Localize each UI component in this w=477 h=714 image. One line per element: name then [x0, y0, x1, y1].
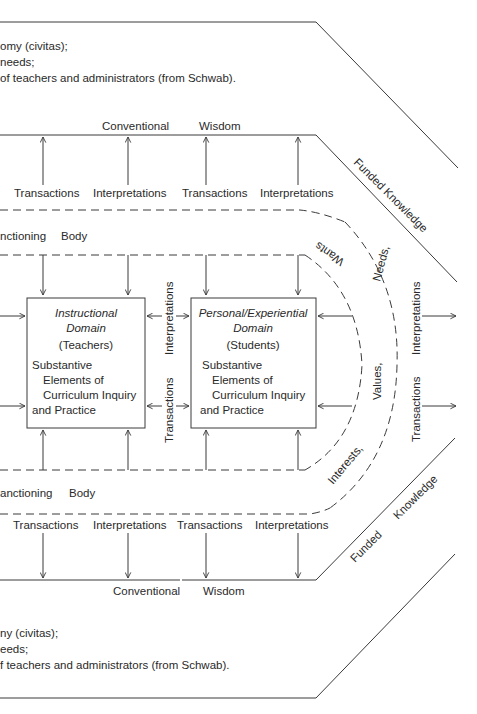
- instructional-body-3: Curriculum Inquiry: [43, 389, 137, 401]
- personal-body-4: and Practice: [200, 404, 264, 416]
- right-interpretations-label: Interpretations: [410, 281, 422, 355]
- top-conventional-label: Conventional: [102, 120, 169, 132]
- instructional-title-2: Domain: [66, 322, 106, 334]
- instructional-body-1: Substantive: [32, 359, 92, 371]
- top-body-word: Body: [61, 230, 87, 242]
- bottom-note-1: ny (civitas);: [0, 627, 58, 639]
- bottom-conventional-wisdom-line-2: [182, 438, 455, 580]
- top-note-1: omy (civitas);: [0, 40, 68, 52]
- arc-label-needs: Needs,: [370, 244, 391, 282]
- bottom-label-interpretations-2: Interpretations: [255, 519, 329, 531]
- instructional-body-2: Elements of: [43, 374, 105, 386]
- top-label-interpretations-1: Interpretations: [93, 187, 167, 199]
- top-sanctioning-dash-outer: [0, 210, 345, 222]
- bottom-funded-label: Funded: [348, 528, 384, 564]
- top-funded-knowledge-label: Funded Knowledge: [352, 156, 431, 235]
- between-transactions-label: Transactions: [163, 377, 175, 443]
- arc-label-interests: Interests,: [325, 442, 365, 486]
- bottom-note-2: eeds;: [0, 643, 28, 655]
- top-label-interpretations-2: Interpretations: [260, 187, 334, 199]
- top-label-transactions-1: Transactions: [14, 187, 80, 199]
- top-note-3: of teachers and administrators (from Sch…: [0, 72, 236, 84]
- bottom-outer-boundary: [0, 554, 455, 698]
- bottom-label-transactions-1: Transactions: [13, 519, 79, 531]
- top-outer-boundary: [0, 22, 458, 168]
- bottom-note-3: f teachers and administrators (from Schw…: [0, 659, 229, 671]
- bottom-body-word: Body: [69, 487, 95, 499]
- personal-title-2: Domain: [233, 322, 273, 334]
- instructional-subtitle: (Teachers): [59, 339, 113, 351]
- instructional-title-1: Instructional: [55, 307, 117, 319]
- bottom-sanctioning-word: anctioning: [0, 487, 52, 499]
- personal-body-3: Curriculum Inquiry: [212, 389, 306, 401]
- instructional-body-4: and Practice: [32, 404, 96, 416]
- top-note-2: needs;: [0, 56, 35, 68]
- bottom-sanctioning-dash-outer: [0, 508, 330, 514]
- personal-subtitle: (Students): [226, 339, 279, 351]
- bottom-label-transactions-2: Transactions: [177, 519, 243, 531]
- arc-label-values: Values,: [371, 362, 383, 400]
- top-wisdom-label: Wisdom: [199, 120, 241, 132]
- bottom-label-interpretations-1: Interpretations: [93, 519, 167, 531]
- bottom-conventional-label: Conventional: [113, 585, 180, 597]
- curriculum-diagram: omy (civitas); needs; of teachers and ad…: [0, 0, 477, 714]
- personal-body-2: Elements of: [212, 374, 274, 386]
- bottom-knowledge-label: Knowledge: [391, 473, 440, 522]
- between-interpretations-label: Interpretations: [163, 281, 175, 355]
- right-transactions-label: Transactions: [410, 376, 422, 442]
- personal-body-1: Substantive: [202, 359, 262, 371]
- personal-title-1: Personal/Experiential: [199, 307, 308, 319]
- top-sanctioning-word: nctioning: [0, 230, 46, 242]
- top-label-transactions-2: Transactions: [182, 187, 248, 199]
- top-conventional-wisdom-line: [0, 135, 457, 282]
- bottom-wisdom-label: Wisdom: [203, 585, 245, 597]
